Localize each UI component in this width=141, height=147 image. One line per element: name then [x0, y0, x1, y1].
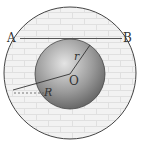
label-inner-radius: r — [74, 50, 80, 63]
label-b: B — [123, 31, 132, 45]
sphere-diagram: A B O r R — [0, 0, 141, 147]
label-a: A — [6, 31, 16, 45]
label-outer-radius: R — [43, 86, 52, 99]
label-center-o: O — [69, 74, 79, 88]
